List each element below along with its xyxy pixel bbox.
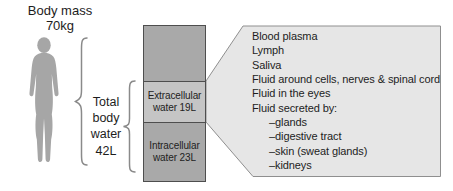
fluid-subitem: –kidneys xyxy=(252,158,447,172)
fluid-subitem: –glands xyxy=(252,115,447,129)
fluid-subitem: –skin (sweat glands) xyxy=(252,144,447,158)
fluid-item: Blood plasma xyxy=(252,29,447,43)
bar-segment-extracellular: Extracellular water 19L xyxy=(144,81,205,123)
fluid-item: Fluid around cells, nerves & spinal cord xyxy=(252,72,447,86)
extracellular-label: Extracellular water 19L xyxy=(144,82,205,122)
fluid-subitem: –digestive tract xyxy=(252,129,447,143)
intracellular-label: Intracellular water 23L xyxy=(144,123,205,181)
fluid-item: Fluid secreted by: xyxy=(252,101,447,115)
fluid-item: Fluid in the eyes xyxy=(252,86,447,100)
bar-segment-intracellular: Intracellular water 23L xyxy=(144,123,205,181)
fluid-item: Saliva xyxy=(252,58,447,72)
body-water-diagram: Body mass 70kg Total body water 42L Extr… xyxy=(0,0,453,191)
fluid-item: Lymph xyxy=(252,43,447,57)
extracellular-fluids-list: Blood plasma Lymph Saliva Fluid around c… xyxy=(252,29,447,172)
water-bar: Extracellular water 19L Intracellular wa… xyxy=(143,25,206,182)
bar-segment-other-mass xyxy=(144,26,205,81)
